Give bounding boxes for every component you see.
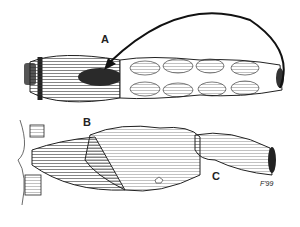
panel-bc-pouch xyxy=(18,120,276,205)
illustration-drawing xyxy=(0,0,300,227)
incision-opening xyxy=(78,68,122,86)
surgical-illustration: A B C F'99 xyxy=(0,0,300,227)
label-b: B xyxy=(83,116,91,128)
label-c: C xyxy=(212,170,220,182)
panel-a-bowel xyxy=(24,13,284,102)
label-a: A xyxy=(101,33,109,45)
artist-signature: F'99 xyxy=(260,180,273,187)
